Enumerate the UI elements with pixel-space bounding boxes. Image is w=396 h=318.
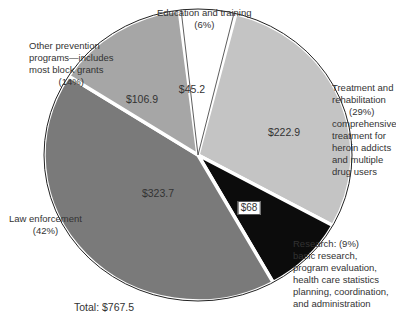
label-other-line1: Other prevention [29,40,113,52]
label-treatment-line8: drug users [332,166,396,178]
label-treatment-line1: Treatment and [332,82,396,94]
label-research-line6: and administration [293,298,389,310]
label-research-line2: basic research, [293,250,389,262]
value-label-education: $45.2 [179,83,205,95]
label-education: Education and training (6%) [157,7,252,31]
label-other-line3: most block grants [29,64,113,76]
label-other-pct: (14%) [29,76,113,88]
label-treatment-line6: heroin addicts [332,142,396,154]
label-research-line1: Research: (9%) [293,238,389,250]
label-treatment: Treatment and rehabilitation (29%) compr… [332,82,396,178]
label-treatment-line7: and multiple [332,154,396,166]
label-education-pct: (6%) [157,19,252,31]
label-research-line3: program evaluation, [293,262,389,274]
label-treatment-line5: treatment for [332,130,396,142]
label-law-pct: (42%) [9,225,82,237]
value-label-law: $323.7 [142,187,174,199]
label-law-name: Law enforcement [9,213,82,225]
label-other-prevention: Other prevention programs—includes most … [29,40,113,88]
total-label: Total: $767.5 [74,301,134,313]
label-education-name: Education and training [157,7,252,19]
value-label-other: $106.9 [126,93,158,105]
label-law-enforcement: Law enforcement (42%) [9,213,82,237]
label-treatment-pct: (29%) [332,106,396,118]
label-other-line2: programs—includes [29,52,113,64]
label-research: Research: (9%) basic research, program e… [293,238,389,310]
label-treatment-line2: rehabilitation [332,94,396,106]
value-label-treatment: $222.9 [268,126,300,138]
label-research-line5: planning, coordination, [293,286,389,298]
value-label-research: $68 [238,201,261,215]
label-research-line4: health care statistics [293,274,389,286]
label-treatment-line4: comprehensive [332,118,396,130]
